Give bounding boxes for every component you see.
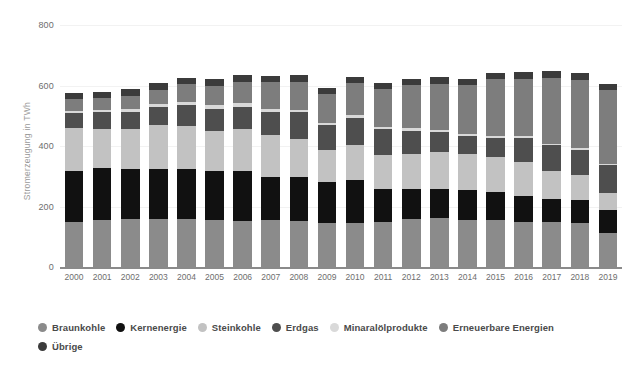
bar-segment-minaral-lprodukte-2012[interactable] xyxy=(402,128,421,130)
bar-segment--brige-2016[interactable] xyxy=(514,72,533,79)
bar-segment-erneuerbare-energien-2001[interactable] xyxy=(93,98,112,110)
bar-segment-minaral-lprodukte-2003[interactable] xyxy=(149,104,168,107)
bar-segment-erdgas-2004[interactable] xyxy=(177,105,196,126)
bar-segment-steinkohle-2018[interactable] xyxy=(571,175,590,200)
bar-segment-erdgas-2000[interactable] xyxy=(65,113,84,128)
bar-segment-erneuerbare-energien-2014[interactable] xyxy=(458,85,477,134)
bar-segment-steinkohle-2006[interactable] xyxy=(233,129,252,170)
bar-segment-erneuerbare-energien-2010[interactable] xyxy=(346,83,365,115)
legend-item-braunkohle[interactable]: Braunkohle xyxy=(38,322,105,333)
bar-segment-steinkohle-2011[interactable] xyxy=(374,155,393,189)
bar-segment-braunkohle-2009[interactable] xyxy=(318,223,337,267)
bar-segment--brige-2004[interactable] xyxy=(177,78,196,85)
bar-segment-steinkohle-2010[interactable] xyxy=(346,145,365,180)
bar-group-2011[interactable] xyxy=(374,25,393,267)
bar-segment-braunkohle-2017[interactable] xyxy=(542,222,561,267)
bar-group-2015[interactable] xyxy=(486,25,505,267)
bar-segment-erneuerbare-energien-2007[interactable] xyxy=(261,82,280,109)
bar-segment-erneuerbare-energien-2012[interactable] xyxy=(402,85,421,128)
bar-segment-kernenergie-2009[interactable] xyxy=(318,182,337,223)
bar-segment-steinkohle-2000[interactable] xyxy=(65,128,84,171)
bar-segment-kernenergie-2013[interactable] xyxy=(430,189,449,218)
bar-segment-braunkohle-2016[interactable] xyxy=(514,222,533,267)
bar-segment-kernenergie-2002[interactable] xyxy=(121,169,140,219)
bar-segment-braunkohle-2010[interactable] xyxy=(346,223,365,267)
bar-segment-kernenergie-2012[interactable] xyxy=(402,189,421,219)
bar-segment-erdgas-2009[interactable] xyxy=(318,125,337,149)
bar-segment-braunkohle-2015[interactable] xyxy=(486,220,505,267)
bar-segment--brige-2012[interactable] xyxy=(402,79,421,85)
legend-item-minaral-lprodukte[interactable]: Minaralölprodukte xyxy=(330,322,428,333)
bar-segment-kernenergie-2006[interactable] xyxy=(233,171,252,222)
bar-segment-erdgas-2011[interactable] xyxy=(374,129,393,155)
bar-segment-steinkohle-2014[interactable] xyxy=(458,154,477,190)
bar-segment-braunkohle-2003[interactable] xyxy=(149,219,168,267)
bar-segment-erdgas-2015[interactable] xyxy=(486,138,505,157)
legend-item-erdgas[interactable]: Erdgas xyxy=(272,322,319,333)
bar-segment--brige-2013[interactable] xyxy=(430,77,449,83)
bar-segment-erdgas-2014[interactable] xyxy=(458,136,477,155)
bar-segment-steinkohle-2002[interactable] xyxy=(121,129,140,170)
bar-group-2013[interactable] xyxy=(430,25,449,267)
bar-segment--brige-2008[interactable] xyxy=(290,75,309,82)
bar-segment-minaral-lprodukte-2001[interactable] xyxy=(93,110,112,112)
bar-segment-erneuerbare-energien-2013[interactable] xyxy=(430,84,449,130)
bar-segment-braunkohle-2019[interactable] xyxy=(599,233,618,267)
bar-group-2012[interactable] xyxy=(402,25,421,267)
bar-segment-erdgas-2006[interactable] xyxy=(233,107,252,130)
bar-segment-braunkohle-2006[interactable] xyxy=(233,221,252,267)
bar-segment-steinkohle-2019[interactable] xyxy=(599,193,618,210)
bar-segment-minaral-lprodukte-2008[interactable] xyxy=(290,110,309,113)
bar-segment-minaral-lprodukte-2017[interactable] xyxy=(542,144,561,146)
bar-segment--brige-2010[interactable] xyxy=(346,77,365,83)
bar-segment-kernenergie-2008[interactable] xyxy=(290,177,309,222)
bar-group-2007[interactable] xyxy=(261,25,280,267)
bar-segment--brige-2003[interactable] xyxy=(149,83,168,90)
bar-segment-erdgas-2001[interactable] xyxy=(93,112,112,129)
bar-segment-braunkohle-2013[interactable] xyxy=(430,218,449,267)
bar-segment-steinkohle-2009[interactable] xyxy=(318,150,337,182)
bar-segment--brige-2006[interactable] xyxy=(233,75,252,82)
bar-segment-minaral-lprodukte-2010[interactable] xyxy=(346,115,365,118)
bar-segment-braunkohle-2018[interactable] xyxy=(571,223,590,267)
bar-segment-steinkohle-2004[interactable] xyxy=(177,126,196,169)
bar-segment-steinkohle-2017[interactable] xyxy=(542,171,561,199)
bar-segment-minaral-lprodukte-2006[interactable] xyxy=(233,103,252,106)
bar-segment-erneuerbare-energien-2009[interactable] xyxy=(318,94,337,123)
bar-segment-erdgas-2003[interactable] xyxy=(149,107,168,125)
bar-segment-braunkohle-2004[interactable] xyxy=(177,219,196,267)
bar-segment-kernenergie-2003[interactable] xyxy=(149,169,168,219)
bar-segment-erdgas-2018[interactable] xyxy=(571,150,590,175)
bar-segment-steinkohle-2012[interactable] xyxy=(402,154,421,189)
bar-segment-minaral-lprodukte-2011[interactable] xyxy=(374,127,393,129)
bar-group-2000[interactable] xyxy=(65,25,84,267)
bar-segment-braunkohle-2012[interactable] xyxy=(402,219,421,267)
bar-segment-steinkohle-2001[interactable] xyxy=(93,129,112,168)
bar-segment--brige-2018[interactable] xyxy=(571,73,590,80)
bar-segment-steinkohle-2013[interactable] xyxy=(430,152,449,189)
bar-segment-erdgas-2019[interactable] xyxy=(599,165,618,193)
bar-segment-minaral-lprodukte-2016[interactable] xyxy=(514,136,533,138)
bar-segment-erneuerbare-energien-2017[interactable] xyxy=(542,78,561,144)
bar-segment-braunkohle-2014[interactable] xyxy=(458,220,477,267)
bar-group-2009[interactable] xyxy=(318,25,337,267)
bar-segment-steinkohle-2005[interactable] xyxy=(205,131,224,172)
bar-segment-kernenergie-2000[interactable] xyxy=(65,171,84,222)
bar-segment--brige-2009[interactable] xyxy=(318,88,337,94)
bar-segment-minaral-lprodukte-2002[interactable] xyxy=(121,109,140,111)
legend-item-kernenergie[interactable]: Kernenergie xyxy=(116,322,187,333)
bar-segment-erneuerbare-energien-2019[interactable] xyxy=(599,90,618,164)
bar-group-2004[interactable] xyxy=(177,25,196,267)
bar-segment-kernenergie-2018[interactable] xyxy=(571,200,590,223)
bar-segment-erneuerbare-energien-2002[interactable] xyxy=(121,96,140,110)
bar-group-2010[interactable] xyxy=(346,25,365,267)
bar-segment-minaral-lprodukte-2004[interactable] xyxy=(177,102,196,105)
bar-segment--brige-2014[interactable] xyxy=(458,79,477,85)
bar-segment-kernenergie-2015[interactable] xyxy=(486,192,505,220)
bar-group-2008[interactable] xyxy=(290,25,309,267)
bar-segment-erdgas-2012[interactable] xyxy=(402,131,421,154)
bar-segment-kernenergie-2004[interactable] xyxy=(177,169,196,220)
bar-segment-erneuerbare-energien-2011[interactable] xyxy=(374,89,393,127)
bar-segment-kernenergie-2017[interactable] xyxy=(542,199,561,222)
bar-segment-minaral-lprodukte-2013[interactable] xyxy=(430,130,449,132)
